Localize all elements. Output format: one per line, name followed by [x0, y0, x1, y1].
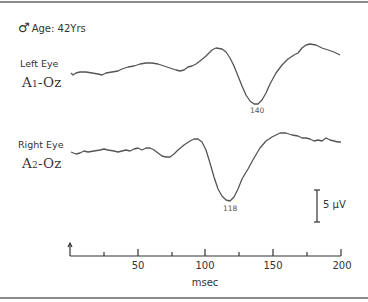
- x-tick-50: 50: [132, 260, 145, 271]
- left-eye-trace: [71, 44, 340, 104]
- x-tick-150: 150: [263, 260, 282, 271]
- x-tick-200: 200: [332, 260, 351, 271]
- x-tick-100: 100: [195, 260, 214, 271]
- scale-bar: [314, 190, 320, 222]
- scale-bar-label: 5 µV: [323, 199, 346, 210]
- right-eye-trace: [71, 133, 341, 201]
- x-axis-label: msec: [192, 277, 219, 288]
- x-axis: [68, 243, 341, 256]
- right-peak-latency: 118: [223, 204, 237, 213]
- left-peak-latency: 140: [250, 106, 264, 115]
- vep-plot: [0, 0, 368, 302]
